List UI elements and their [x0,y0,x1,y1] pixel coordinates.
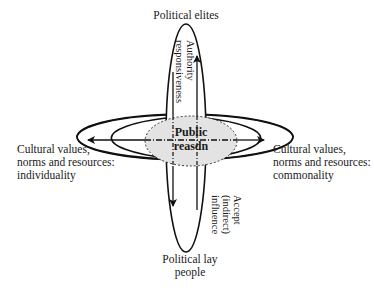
left-label-line1: Cultural values, [17,143,115,156]
right-label-line3: commonality [273,169,371,182]
downward-label-line2: (indirect) [221,195,232,234]
upward-label-line1: Authority [185,40,196,103]
public-reason-diagram: Political elites Political lay people Cu… [0,0,374,288]
bottom-label-line2: people [140,266,240,279]
public-reason-label: Public reasdn [161,125,221,153]
left-label-line3: individuality [17,169,115,182]
right-label-line1: Cultural values, [273,143,371,156]
right-label-line2: norms and resources: [273,156,371,169]
political-elites-label: Political elites [136,9,236,22]
left-label-line2: norms and resources: [17,156,115,169]
individuality-label: Cultural values, norms and resources: in… [17,143,115,182]
commonality-label: Cultural values, norms and resources: co… [273,143,371,182]
downward-label-line3: influence [210,195,221,234]
political-lay-people-label: Political lay people [140,253,240,279]
upward-label-line2: responsiveness [174,40,185,103]
downward-label-line1: Accept [232,195,243,234]
center-label-line1: Public [161,125,221,139]
bottom-label-line1: Political lay [140,253,240,266]
center-label-line2: reasdn [161,139,221,153]
authority-responsiveness-label: Authority responsiveness [174,40,196,103]
accept-influence-label: Accept (indirect) influence [210,195,243,234]
